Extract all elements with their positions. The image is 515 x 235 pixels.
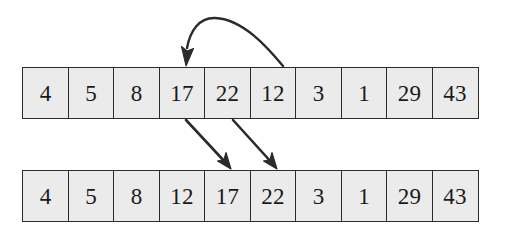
array-cell: 1: [341, 170, 388, 222]
array-cell: 1: [341, 67, 388, 119]
array-cell: 12: [250, 67, 297, 119]
array-before-insertion: 4 5 8 17 22 12 3 1 29 43: [22, 67, 479, 119]
array-cell: 8: [113, 67, 160, 119]
array-cell: 5: [68, 67, 115, 119]
array-cell: 29: [386, 170, 433, 222]
array-cell: 4: [22, 67, 69, 119]
shift-arrow-17: [186, 120, 231, 169]
array-cell: 22: [204, 67, 251, 119]
array-cell: 3: [295, 170, 342, 222]
array-cell: 43: [432, 170, 479, 222]
array-cell: 22: [250, 170, 297, 222]
insertion-curve-arrow: [182, 18, 284, 66]
array-cell: 29: [386, 67, 433, 119]
array-cell: 17: [204, 170, 251, 222]
array-cell: 5: [68, 170, 115, 222]
shift-arrow-22: [233, 120, 277, 169]
array-cell: 3: [295, 67, 342, 119]
array-cell: 8: [113, 170, 160, 222]
array-cell: 17: [159, 67, 206, 119]
array-cell: 43: [432, 67, 479, 119]
array-after-insertion: 4 5 8 12 17 22 3 1 29 43: [22, 170, 479, 222]
insertion-sort-figure: 4 5 8 17 22 12 3 1 29 43 4 5 8 12 17 22 …: [0, 0, 515, 235]
array-cell: 12: [159, 170, 206, 222]
array-cell: 4: [22, 170, 69, 222]
